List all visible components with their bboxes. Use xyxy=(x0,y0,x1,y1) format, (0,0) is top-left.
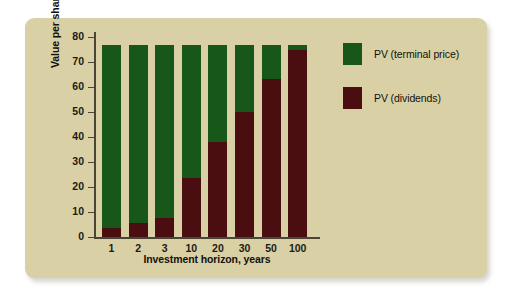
y-tick: 40 xyxy=(88,137,94,138)
bar-50[interactable] xyxy=(262,45,281,236)
x-axis-line xyxy=(94,237,320,239)
legend-label: PV (terminal price) xyxy=(374,48,459,60)
y-tick: 80 xyxy=(88,37,94,38)
y-tick-label: 80 xyxy=(72,30,84,42)
y-tick: 70 xyxy=(88,62,94,63)
y-tick: 50 xyxy=(88,112,94,113)
y-tick-label: 70 xyxy=(72,55,84,67)
chart-legend: PV (terminal price)PV (dividends) xyxy=(343,43,483,131)
y-tick-label: 60 xyxy=(72,80,84,92)
plot-area: 01020304050607080 12310203050100 xyxy=(94,32,316,238)
y-tick: 10 xyxy=(88,212,94,213)
y-tick-label: 30 xyxy=(72,155,84,167)
bar-segment-dividends[interactable] xyxy=(102,228,121,237)
legend-item[interactable]: PV (terminal price) xyxy=(343,43,483,65)
bar-segment-terminal-price[interactable] xyxy=(102,45,121,227)
bar-segment-dividends[interactable] xyxy=(208,142,227,237)
y-tick: 60 xyxy=(88,87,94,88)
legend-swatch-icon xyxy=(343,43,362,65)
y-axis-line xyxy=(94,32,96,238)
x-axis-title: Investment horizon, years xyxy=(94,253,320,265)
bar-segment-dividends[interactable] xyxy=(182,178,201,237)
bar-segment-dividends[interactable] xyxy=(129,223,148,237)
y-tick-label: 40 xyxy=(72,130,84,142)
bar-1[interactable] xyxy=(102,45,121,236)
bar-segment-terminal-price[interactable] xyxy=(262,45,281,79)
bar-segment-terminal-price[interactable] xyxy=(235,45,254,111)
bar-2[interactable] xyxy=(129,45,148,236)
bar-10[interactable] xyxy=(182,45,201,236)
y-tick-label: 10 xyxy=(72,205,84,217)
y-tick-label: 0 xyxy=(78,230,84,242)
bar-3[interactable] xyxy=(155,45,174,236)
bar-segment-dividends[interactable] xyxy=(288,50,307,236)
bar-20[interactable] xyxy=(208,45,227,236)
y-tick-label: 50 xyxy=(72,105,84,117)
y-tick: 0 xyxy=(88,237,94,238)
bar-segment-terminal-price[interactable] xyxy=(129,45,148,222)
y-tick: 20 xyxy=(88,187,94,188)
bar-segment-dividends[interactable] xyxy=(155,218,174,237)
chart-card: Value per share, dollars 010203040506070… xyxy=(25,18,487,278)
legend-label: PV (dividends) xyxy=(374,92,441,104)
legend-swatch-icon xyxy=(343,87,362,109)
bar-segment-dividends[interactable] xyxy=(262,79,281,237)
bar-segment-terminal-price[interactable] xyxy=(208,45,227,141)
legend-item[interactable]: PV (dividends) xyxy=(343,87,483,109)
y-axis-title: Value per share, dollars xyxy=(49,0,61,68)
bar-segment-terminal-price[interactable] xyxy=(182,45,201,178)
bar-100[interactable] xyxy=(288,45,307,236)
bar-30[interactable] xyxy=(235,45,254,236)
y-tick-label: 20 xyxy=(72,180,84,192)
bar-segment-terminal-price[interactable] xyxy=(155,45,174,217)
bar-segment-dividends[interactable] xyxy=(235,112,254,237)
y-tick: 30 xyxy=(88,162,94,163)
